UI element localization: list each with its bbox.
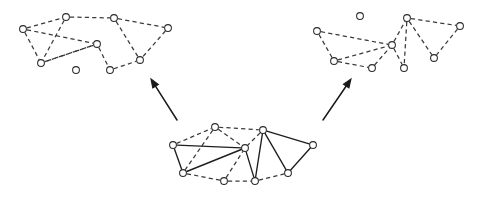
bottom-center-source-graph xyxy=(170,124,317,185)
graph-edge-dashed xyxy=(118,19,164,28)
graph-edge-dashed xyxy=(99,48,108,67)
graph-edge-dashed xyxy=(43,21,64,60)
graph-edge-dashed xyxy=(437,29,458,55)
graph-edge-dashed xyxy=(321,32,388,45)
graph-edge-dashed xyxy=(70,17,110,18)
arrow-shaft xyxy=(323,83,348,120)
arrow-bottom-to-top-left xyxy=(151,79,177,120)
graph-node xyxy=(310,142,317,149)
graph-node xyxy=(314,28,321,35)
graph-edge-solid xyxy=(174,149,181,169)
graph-node xyxy=(137,57,144,64)
graphs-layer xyxy=(20,13,464,185)
graph-edge-dashed xyxy=(319,34,332,57)
graph-edge-dashed xyxy=(394,22,405,42)
graph-node xyxy=(457,23,464,30)
arrow-bottom-to-top-right xyxy=(323,79,351,120)
graph-node xyxy=(404,15,411,22)
graph-node xyxy=(165,25,172,32)
top-left-graph xyxy=(20,14,172,74)
graph-node xyxy=(252,178,259,185)
graph-edge-solid xyxy=(267,131,309,144)
graph-edge-dashed xyxy=(218,129,241,145)
graph-node xyxy=(221,178,228,185)
graph-edge-solid xyxy=(246,152,254,177)
graph-edge-dashed xyxy=(187,174,220,180)
graph-edge-dashed xyxy=(177,129,212,144)
graph-node xyxy=(94,41,101,48)
arrow-shaft xyxy=(153,83,177,120)
graph-edge-dashed xyxy=(116,21,138,56)
graph-node xyxy=(38,60,45,67)
arrow-head xyxy=(151,79,158,88)
arrow-head xyxy=(343,79,351,88)
top-right-graph xyxy=(314,13,464,72)
graph-node xyxy=(389,42,396,49)
graph-edge-dashed xyxy=(114,61,136,68)
graph-edge-dashed xyxy=(219,127,259,130)
graph-edge-dashed xyxy=(27,30,93,43)
graph-edge-dashed xyxy=(248,133,260,145)
graph-node xyxy=(20,26,27,33)
graph-figure-canvas xyxy=(0,0,482,199)
graph-edge-dashed xyxy=(259,174,284,180)
graph-node xyxy=(242,145,249,152)
graph-edge-dashed xyxy=(27,18,62,28)
graph-edge-dashed xyxy=(338,62,368,68)
graph-edge-solid xyxy=(265,133,286,169)
graph-node xyxy=(331,58,338,65)
graph-edge-dashed xyxy=(375,48,390,65)
graph-edge-dashed xyxy=(185,130,212,169)
graph-node xyxy=(431,55,438,62)
graph-edge-dashed xyxy=(409,21,432,54)
graph-edge-dashed xyxy=(143,31,166,57)
graph-node xyxy=(180,170,187,177)
graph-edge-solid xyxy=(187,150,242,172)
graph-edge-dashed xyxy=(411,19,456,26)
graph-edge-solid xyxy=(177,145,241,148)
arrows-layer xyxy=(151,79,351,120)
graph-node xyxy=(285,170,292,177)
graph-node xyxy=(111,15,118,22)
graph-node xyxy=(260,127,267,134)
graph-node-isolated xyxy=(73,67,80,74)
graph-node xyxy=(212,124,219,131)
graph-node xyxy=(170,142,177,149)
graph-edge-solid xyxy=(256,134,263,177)
graph-edge-solid xyxy=(291,148,311,170)
graph-edge-dashed xyxy=(404,22,407,64)
figure-container xyxy=(0,0,482,199)
graph-edge-dashed xyxy=(25,33,39,60)
graph-node xyxy=(107,67,114,74)
graph-node-isolated xyxy=(357,13,364,20)
graph-edge-dashed xyxy=(394,49,402,65)
graph-node xyxy=(369,65,376,72)
graph-node xyxy=(401,65,408,72)
graph-node xyxy=(63,14,70,21)
